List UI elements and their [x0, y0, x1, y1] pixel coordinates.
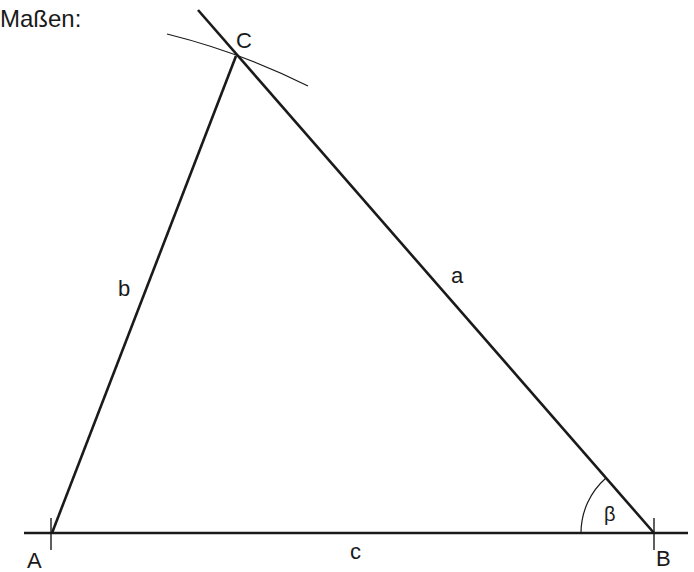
- angle-label-beta: β: [604, 503, 616, 525]
- vertex-label-a: A: [27, 548, 42, 572]
- vertex-label-b: B: [656, 546, 671, 571]
- triangle-diagram: C A B a b c β: [0, 0, 694, 572]
- side-a-line: [198, 10, 654, 533]
- side-label-b: b: [118, 276, 130, 301]
- angle-beta-arc: [581, 478, 606, 533]
- side-label-a: a: [451, 263, 464, 288]
- vertex-label-c: C: [236, 28, 252, 53]
- side-label-c: c: [350, 539, 361, 564]
- side-b-line: [52, 56, 236, 533]
